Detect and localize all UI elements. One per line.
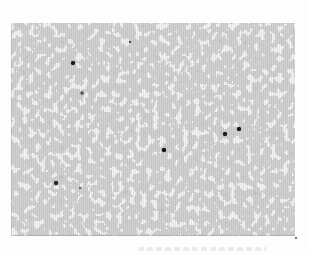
dark-particle [71, 61, 75, 65]
micrograph-image [11, 23, 295, 236]
dark-particle [54, 181, 58, 185]
dark-particle [129, 41, 131, 43]
dark-particle [162, 148, 166, 152]
grain-texture [11, 23, 295, 236]
ghost-print-marks [138, 247, 266, 251]
dark-particle [237, 127, 241, 131]
dark-particle [79, 187, 81, 189]
dark-particle [295, 237, 297, 239]
dark-particle [223, 132, 227, 136]
scanned-page [0, 0, 310, 255]
dark-particle [81, 92, 84, 95]
